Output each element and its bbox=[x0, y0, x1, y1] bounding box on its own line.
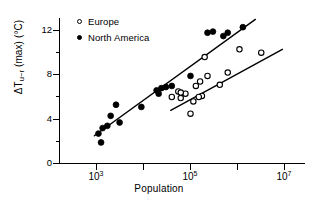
data-point bbox=[259, 50, 264, 55]
y-tick-label-4: 4 bbox=[28, 114, 52, 124]
data-point bbox=[188, 73, 194, 79]
y-axis-ticks bbox=[53, 31, 60, 164]
x-tick-label-1e3: 103 bbox=[88, 172, 103, 182]
data-point bbox=[169, 94, 174, 99]
y-tick-label-0: 0 bbox=[28, 158, 52, 168]
data-point bbox=[205, 30, 211, 36]
y-axis-title-units: (°C) bbox=[13, 20, 24, 38]
data-point bbox=[98, 140, 104, 146]
filled-circle-icon bbox=[73, 35, 85, 40]
data-point bbox=[188, 111, 193, 116]
chart-legend: Europe North America bbox=[73, 14, 150, 46]
legend-item-europe: Europe bbox=[73, 14, 150, 28]
trend-line-europe bbox=[171, 49, 283, 110]
data-point bbox=[156, 91, 162, 97]
data-point bbox=[196, 94, 201, 99]
data-point bbox=[138, 104, 144, 110]
open-circle-icon bbox=[73, 19, 85, 24]
data-point bbox=[178, 95, 183, 100]
data-point bbox=[217, 82, 222, 87]
series-europe bbox=[169, 47, 264, 117]
y-axis-title: ΔTu−r (max) (°C) bbox=[14, 2, 24, 112]
y-axis-title-delta-t: ΔT bbox=[13, 81, 24, 94]
y-tick-label-12: 12 bbox=[28, 25, 52, 35]
data-point bbox=[193, 83, 198, 88]
data-point bbox=[108, 113, 114, 119]
y-axis-title-subscript: u−r bbox=[17, 70, 26, 81]
legend-item-north-america: North America bbox=[73, 30, 150, 44]
data-point bbox=[117, 120, 123, 126]
data-point bbox=[210, 29, 216, 35]
y-axis-tick-labels: 12 8 4 0 bbox=[28, 0, 52, 203]
x-axis-title: Population bbox=[0, 184, 318, 194]
x-tick-label-1e5: 105 bbox=[182, 172, 197, 182]
data-point bbox=[197, 79, 202, 84]
x-axis-ticks bbox=[97, 164, 285, 171]
data-point bbox=[225, 70, 230, 75]
data-point bbox=[240, 24, 246, 30]
legend-label-north-america: North America bbox=[88, 32, 150, 43]
data-point bbox=[104, 123, 110, 129]
data-point bbox=[169, 83, 175, 89]
data-point bbox=[113, 102, 119, 108]
data-point bbox=[202, 54, 207, 59]
data-point bbox=[191, 99, 196, 104]
data-point bbox=[96, 131, 102, 137]
data-point bbox=[178, 90, 183, 95]
y-tick-label-8: 8 bbox=[28, 69, 52, 79]
legend-label-europe: Europe bbox=[88, 16, 119, 27]
data-point bbox=[225, 30, 231, 36]
scatter-chart-figure: Europe North America 12 8 4 0 ΔTu−r (max… bbox=[0, 0, 318, 203]
data-point bbox=[237, 47, 242, 52]
data-point bbox=[163, 84, 169, 90]
x-tick-label-1e7: 107 bbox=[276, 172, 291, 182]
y-axis-title-qualifier: (max) bbox=[13, 41, 24, 67]
data-point bbox=[205, 73, 210, 78]
